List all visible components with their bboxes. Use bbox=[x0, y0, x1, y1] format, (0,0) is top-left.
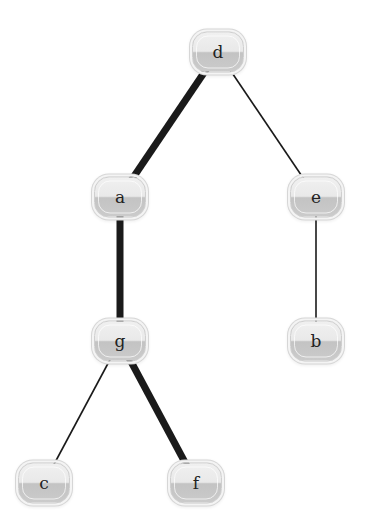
tree-node-d: d bbox=[192, 32, 244, 73]
tree-node-c: c bbox=[18, 463, 70, 504]
tree-node-a: a bbox=[94, 177, 146, 218]
node-label: d bbox=[213, 43, 224, 60]
node-label: b bbox=[311, 332, 322, 349]
tree-diagram bbox=[0, 0, 365, 526]
edge-d-e bbox=[218, 52, 316, 197]
tree-node-g: g bbox=[94, 321, 146, 362]
node-label: c bbox=[39, 474, 49, 491]
node-label: a bbox=[115, 188, 125, 205]
node-label: e bbox=[311, 188, 321, 205]
node-label: f bbox=[193, 474, 199, 491]
tree-node-b: b bbox=[290, 321, 342, 362]
tree-node-e: e bbox=[290, 177, 342, 218]
tree-node-f: f bbox=[170, 463, 222, 504]
edge-d-a bbox=[120, 52, 218, 197]
node-label: g bbox=[115, 332, 126, 349]
